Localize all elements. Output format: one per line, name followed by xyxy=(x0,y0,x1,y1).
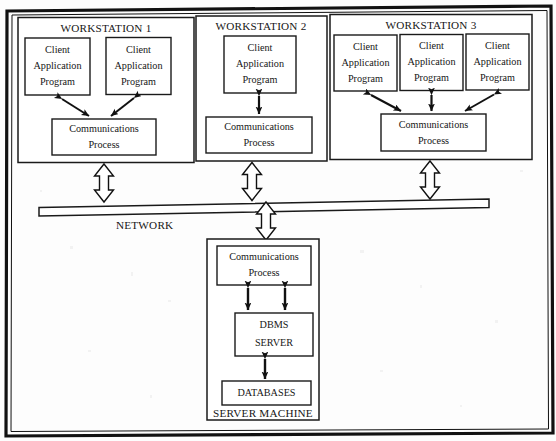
ws3-client-3-line3: Program xyxy=(480,72,515,83)
server-machine-label: SERVER MACHINE xyxy=(213,407,313,419)
architecture-diagram: WORKSTATION 1 Client Application Program… xyxy=(0,0,556,441)
ws1-network-connector-arrow xyxy=(95,164,114,202)
dbms-server-line2: SERVER xyxy=(255,337,293,348)
workstation-3: WORKSTATION 3 Client Application Program… xyxy=(330,15,532,160)
ws2-client-1-line2: Application xyxy=(236,58,284,69)
server-comm-line1: Communications xyxy=(229,251,299,262)
ws1-client-2-line3: Program xyxy=(121,76,156,87)
ws3-client-3-line1: Client xyxy=(485,40,510,51)
diagram-canvas: WORKSTATION 1 Client Application Program… xyxy=(0,0,556,441)
dbms-server-line1: DBMS xyxy=(260,319,289,330)
ws3-client-1-line1: Client xyxy=(353,41,378,52)
ws3-comm-line2: Process xyxy=(418,135,449,146)
ws2-client-1-line3: Program xyxy=(242,74,277,85)
ws2-comm-line2: Process xyxy=(243,137,274,148)
server-machine: Communications Process DBMS SERVER DATAB… xyxy=(207,239,319,420)
ws3-client-2-line2: Application xyxy=(407,56,455,67)
ws3-client-2-line1: Client xyxy=(419,40,444,51)
workstation-1: WORKSTATION 1 Client Application Program… xyxy=(18,18,194,163)
ws3-client-2-line3: Program xyxy=(414,72,449,83)
ws1-client-2-line1: Client xyxy=(126,44,151,55)
ws1-comm-line2: Process xyxy=(88,139,119,150)
ws1-comm-line1: Communications xyxy=(69,123,139,134)
ws1-client-1-line1: Client xyxy=(45,44,70,55)
ws2-network-connector-arrow xyxy=(243,163,262,201)
network-label: NETWORK xyxy=(116,219,173,231)
ws2-client-1-line1: Client xyxy=(248,42,273,53)
ws3-client-1-line3: Program xyxy=(348,73,383,84)
ws2-comm-line1: Communications xyxy=(224,121,294,132)
workstation-3-title: WORKSTATION 3 xyxy=(386,19,477,31)
ws3-client-3-line2: Application xyxy=(473,56,521,67)
workstation-1-title: WORKSTATION 1 xyxy=(61,22,152,34)
ws3-client-1-line2: Application xyxy=(341,57,389,68)
ws1-client-1-line2: Application xyxy=(33,60,81,71)
ws1-client-2-line2: Application xyxy=(114,60,162,71)
workstation-2-title: WORKSTATION 2 xyxy=(216,20,307,32)
server-comm-line2: Process xyxy=(248,267,279,278)
workstation-2: WORKSTATION 2 Client Application Program… xyxy=(196,16,327,161)
ws1-client-1-line3: Program xyxy=(40,76,75,87)
ws3-network-connector-arrow xyxy=(421,161,440,199)
databases-label: DATABASES xyxy=(237,387,295,398)
ws3-comm-line1: Communications xyxy=(399,119,469,130)
